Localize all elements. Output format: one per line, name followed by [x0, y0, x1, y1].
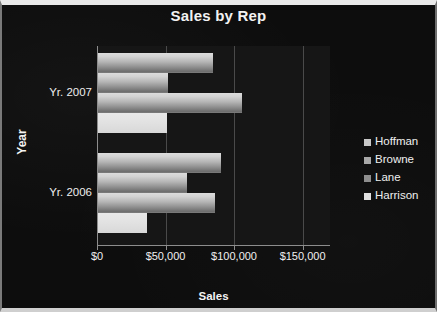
y-axis-category-label: Yr. 2006	[30, 186, 92, 198]
bar-group	[98, 53, 330, 133]
x-axis-line	[97, 245, 330, 246]
legend-label: Browne	[375, 154, 414, 166]
y-axis-category-label: Yr. 2007	[30, 86, 92, 98]
legend-label: Hoffman	[375, 136, 418, 148]
bar	[98, 173, 187, 193]
x-axis-tick-label: $50,000	[146, 250, 186, 262]
bar	[98, 53, 213, 73]
legend-swatch-icon	[364, 175, 371, 182]
y-axis-line	[97, 46, 98, 246]
legend-item-hoffman[interactable]: Hoffman	[364, 133, 418, 151]
x-axis-title: Sales	[97, 290, 330, 302]
legend-item-browne[interactable]: Browne	[364, 151, 418, 169]
legend-swatch-icon	[364, 139, 371, 146]
bar	[98, 93, 242, 113]
bar	[98, 213, 147, 233]
legend-label: Lane	[375, 172, 401, 184]
chart-frame: Sales by Rep Year Yr. 2007Yr. 2006 $0$50…	[0, 0, 437, 312]
chart-legend: HoffmanBrowneLaneHarrison	[364, 133, 418, 205]
bar	[98, 193, 215, 213]
legend-swatch-icon	[364, 193, 371, 200]
bar	[98, 113, 167, 133]
x-axis-tick-label: $100,000	[211, 250, 257, 262]
legend-swatch-icon	[364, 157, 371, 164]
chart-title: Sales by Rep	[2, 7, 435, 24]
bar-group	[98, 153, 330, 233]
legend-item-harrison[interactable]: Harrison	[364, 187, 418, 205]
legend-label: Harrison	[375, 190, 418, 202]
x-axis-tick-label: $150,000	[280, 250, 326, 262]
legend-item-lane[interactable]: Lane	[364, 169, 418, 187]
plot-area	[97, 46, 330, 246]
bar	[98, 153, 221, 173]
x-axis-tick-label: $0	[91, 250, 103, 262]
bar	[98, 73, 168, 93]
y-axis-title: Year	[15, 112, 29, 172]
